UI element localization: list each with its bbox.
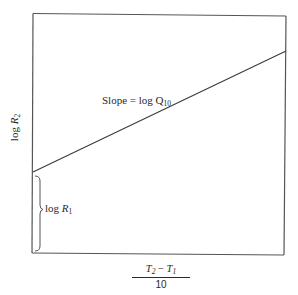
plot-frame [32, 14, 286, 256]
y-axis-label: log R2 [9, 108, 20, 148]
intercept-label-prefix: log [45, 202, 62, 214]
slope-label: Slope = log Q10 [102, 95, 171, 106]
x-axis-label-numerator: T2 − T1 [132, 264, 190, 278]
y-axis-label-variable: R [8, 118, 20, 125]
x-axis-label: T2 − T1 10 [132, 264, 190, 290]
intercept-brace [35, 176, 43, 251]
intercept-label-variable: R [62, 202, 69, 214]
top-border [33, 14, 286, 17]
y-axis-label-subscript: 2 [13, 114, 22, 118]
slope-label-text: Slope = log Q [102, 94, 164, 106]
x-axis-label-denominator: 10 [132, 278, 190, 290]
bottom-axis [32, 253, 284, 255]
x-num-operator: − [155, 263, 166, 274]
trend-line [33, 51, 286, 172]
slope-label-subscript: 10 [164, 99, 172, 108]
y-axis-label-prefix: log [8, 124, 20, 141]
intercept-label: log R1 [45, 203, 72, 214]
left-axis [32, 14, 33, 254]
intercept-label-subscript: 1 [69, 207, 73, 216]
x-num-b-sub: 1 [172, 267, 176, 276]
diagram-canvas [0, 0, 298, 295]
